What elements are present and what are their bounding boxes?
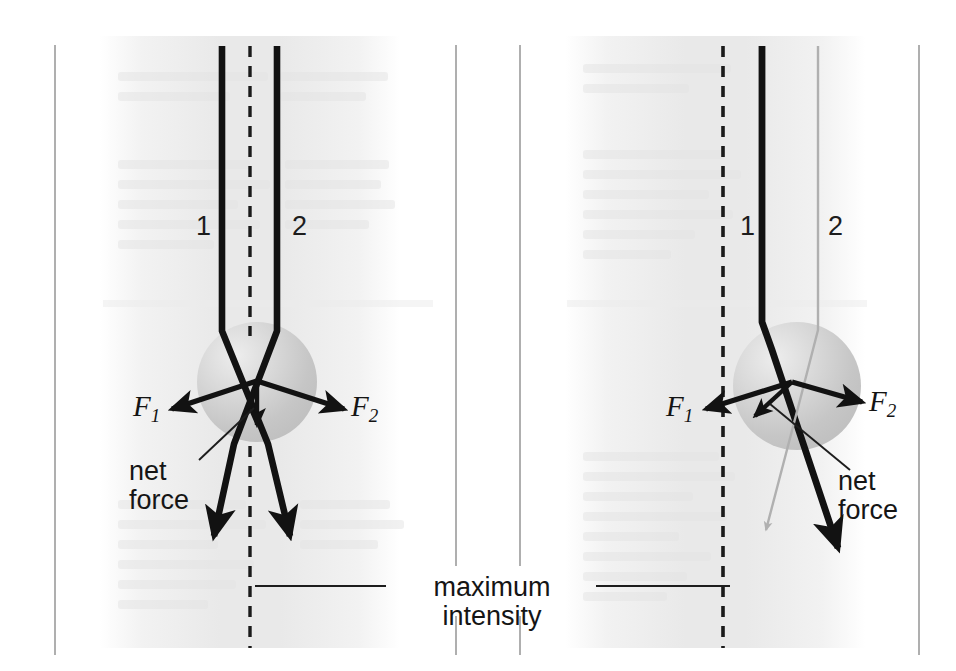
- net-force-caption-left-line2: force: [129, 486, 189, 515]
- beam-label-1-right: 1: [740, 213, 755, 240]
- force-label-f1-left-letter: F: [133, 390, 151, 422]
- beam-label-1-left: 1: [196, 213, 211, 240]
- max-intensity-annotation: maximum intensity: [392, 573, 592, 630]
- max-intensity-line2: intensity: [392, 602, 592, 631]
- net-force-caption-right-line2: force: [838, 496, 898, 525]
- force-label-f1-right: F1: [666, 392, 693, 425]
- force-label-f1-left-subscript: 1: [151, 405, 161, 426]
- force-label-f2-left: F2: [351, 392, 378, 425]
- optical-trap-figure: [0, 0, 956, 671]
- force-label-f1-right-letter: F: [666, 390, 684, 422]
- force-label-f2-left-letter: F: [351, 390, 369, 422]
- beam-label-2-right: 2: [828, 213, 843, 240]
- force-label-f1-right-subscript: 1: [684, 405, 694, 426]
- force-label-f2-right-subscript: 2: [887, 400, 897, 421]
- beam-label-2-left: 2: [292, 213, 307, 240]
- figure-page: 1 2 F1 F2 net force 1 2 F1 F2 net force …: [0, 0, 956, 671]
- force-label-f2-left-subscript: 2: [369, 405, 379, 426]
- net-force-caption-right-line1: net: [838, 467, 898, 496]
- force-label-f2-right: F2: [869, 387, 896, 420]
- force-label-f1-left: F1: [133, 392, 160, 425]
- net-force-caption-left: net force: [129, 457, 189, 514]
- force-label-f2-right-letter: F: [869, 385, 887, 417]
- net-force-caption-right: net force: [838, 467, 898, 524]
- net-force-caption-left-line1: net: [129, 457, 189, 486]
- max-intensity-line1: maximum: [392, 573, 592, 602]
